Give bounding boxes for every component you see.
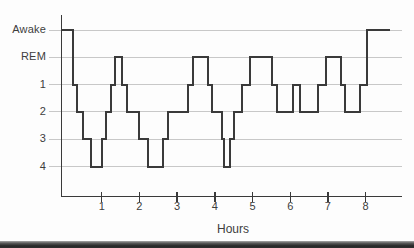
x-tick-label-4: 4 <box>203 200 227 212</box>
y-axis-label-stage4: 4 <box>0 159 46 174</box>
page-edge-bar <box>0 241 414 248</box>
x-tick-label-3: 3 <box>165 200 189 212</box>
x-tick-label-5: 5 <box>241 200 265 212</box>
y-axis-label-stage1: 1 <box>0 77 46 92</box>
x-tick-label-8: 8 <box>354 200 378 212</box>
x-tick-label-6: 6 <box>278 200 302 212</box>
y-axis-label-stage2: 2 <box>0 104 46 119</box>
x-axis-title: Hours <box>203 222 263 236</box>
y-axis-label-rem: REM <box>0 49 46 64</box>
sleep-hypnogram-figure: Awake REM 1 2 3 4 1 2 3 4 5 6 7 8 Hours <box>0 0 414 248</box>
x-tick-label-7: 7 <box>316 200 340 212</box>
x-tick-label-2: 2 <box>127 200 151 212</box>
y-axis-label-awake: Awake <box>0 22 46 37</box>
y-axis-label-stage3: 3 <box>0 131 46 146</box>
x-tick-label-1: 1 <box>90 200 114 212</box>
